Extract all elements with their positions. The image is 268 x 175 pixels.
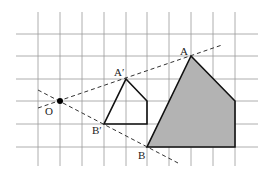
- label-b: B: [138, 149, 145, 161]
- preimage-polygon-small: [104, 79, 147, 124]
- image-polygon-large: [147, 56, 235, 147]
- label-a-prime: A′: [114, 66, 124, 78]
- center-point-o: [57, 98, 63, 104]
- label-a: A: [180, 45, 188, 57]
- dilation-diagram: O A′ B′ A B: [0, 0, 268, 175]
- label-o: O: [45, 105, 53, 117]
- label-b-prime: B′: [92, 124, 102, 136]
